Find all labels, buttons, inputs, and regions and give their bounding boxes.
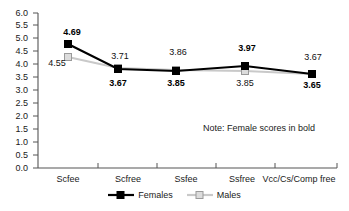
- females-marker: [173, 68, 180, 75]
- line-chart: 6.0 5.5 5.0 4.5 4.0 3.5 3.0 2.5 2.0 1.5 …: [0, 0, 349, 211]
- y-axis-ticks: [33, 13, 38, 168]
- chart-note: Note: Female scores in bold: [203, 123, 315, 133]
- y-tick-label: 5.5: [4, 20, 28, 30]
- females-marker: [242, 63, 249, 70]
- legend-item-males[interactable]: Males: [187, 190, 241, 200]
- data-label-males: 3.71: [111, 51, 129, 61]
- chart-legend: Females Males: [0, 190, 349, 200]
- x-category-label: Vcc/Cs/Comp free: [262, 174, 335, 184]
- y-tick-label: 3.0: [4, 85, 28, 95]
- data-label-males: 3.67: [304, 52, 322, 62]
- males-line: [68, 57, 312, 74]
- y-tick-label: 0.0: [4, 163, 28, 173]
- data-label-females: 3.85: [167, 78, 185, 88]
- data-label-females: 4.69: [63, 27, 81, 37]
- data-label-females: 3.97: [238, 43, 256, 53]
- y-tick-label: 5.0: [4, 33, 28, 43]
- y-tick-label: 1.0: [4, 137, 28, 147]
- data-label-males: 4.55: [48, 58, 66, 68]
- data-label-males: 3.86: [169, 47, 187, 57]
- y-tick-label: 1.5: [4, 124, 28, 134]
- females-marker: [65, 41, 72, 48]
- females-line: [68, 44, 312, 74]
- x-category-label: Ssfee: [174, 174, 197, 184]
- legend-label-females: Females: [138, 190, 173, 200]
- legend-item-females[interactable]: Females: [108, 190, 173, 200]
- y-tick-label: 0.5: [4, 150, 28, 160]
- y-tick-label: 3.5: [4, 72, 28, 82]
- x-category-label: Scfee: [56, 174, 79, 184]
- data-label-females: 3.65: [303, 80, 321, 90]
- females-marker: [309, 71, 316, 78]
- legend-label-males: Males: [217, 190, 241, 200]
- axis-lines: [38, 13, 337, 168]
- data-label-males: 3.85: [236, 78, 254, 88]
- females-marker: [115, 66, 122, 73]
- x-category-label: Ssfree: [229, 174, 255, 184]
- legend-swatch-females-icon: [108, 190, 134, 200]
- x-category-label: Scfree: [115, 174, 141, 184]
- legend-swatch-males-icon: [187, 190, 213, 200]
- y-tick-label: 4.5: [4, 46, 28, 56]
- y-tick-label: 2.5: [4, 98, 28, 108]
- y-tick-label: 2.0: [4, 111, 28, 121]
- y-tick-label: 6.0: [4, 8, 28, 18]
- x-axis-ticks: [98, 163, 337, 168]
- series-males: [65, 54, 316, 78]
- data-label-females: 3.67: [109, 78, 127, 88]
- y-tick-label: 4.0: [4, 59, 28, 69]
